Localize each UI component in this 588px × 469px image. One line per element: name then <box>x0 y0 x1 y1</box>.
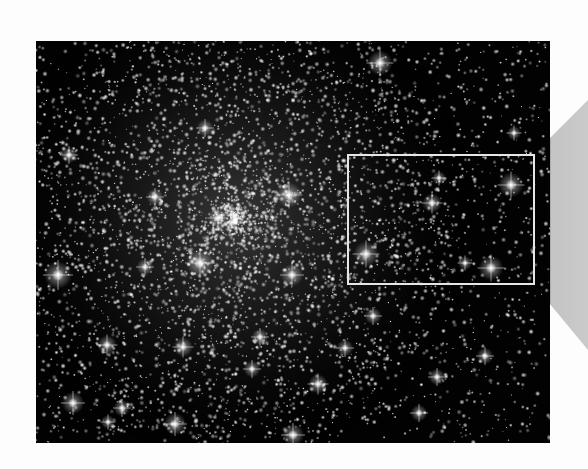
inset-highlight-box <box>347 154 535 285</box>
